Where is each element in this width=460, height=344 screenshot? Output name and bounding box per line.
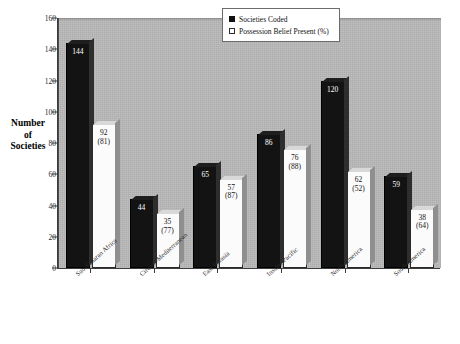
bar-societies-coded: 144 [66, 43, 90, 268]
bar-value-label: 57(87) [220, 184, 242, 201]
x-axis-tick-mark [90, 268, 91, 273]
y-axis-tick-mark [52, 205, 57, 206]
bar-value-label: 59 [385, 181, 407, 190]
bar-value-label: 38(64) [411, 214, 433, 231]
x-axis-tick-mark [154, 268, 155, 273]
bar-count-value: 92 [100, 128, 108, 137]
bar-value-label: 144 [67, 48, 89, 57]
bar-percent-value: (88) [289, 162, 302, 171]
y-axis-tick-mark [52, 80, 57, 81]
bar-count-value: 57 [227, 183, 235, 192]
bar-value-label: 92(81) [93, 129, 115, 146]
legend-item-label: Possession Belief Present (%) [239, 27, 329, 36]
bar-value-label: 86 [258, 139, 280, 148]
bar-percent-value: (87) [225, 191, 238, 200]
bar-side-face [433, 204, 438, 266]
bar-count-value: 35 [164, 217, 172, 226]
y-axis-line [57, 18, 58, 269]
y-axis-tick-label: 160 [0, 14, 56, 23]
bar-chart-figure: Number of Societies 14492(81)4435(77)655… [0, 0, 460, 344]
y-axis-tick-label: 60 [0, 170, 56, 179]
bar-count-value: 76 [291, 153, 299, 162]
bar-societies-coded: 44 [130, 199, 154, 268]
plot-area: 14492(81)4435(77)6557(87)8676(88)12062(5… [58, 18, 441, 268]
y-axis-tick-label: 0 [0, 264, 56, 273]
filled-black-square-icon [229, 16, 235, 22]
y-axis-tick-label: 100 [0, 107, 56, 116]
bar-value-label: 44 [131, 204, 153, 213]
y-axis-tick-label: 80 [0, 139, 56, 148]
open-white-square-icon [229, 28, 235, 34]
bar-value-label: 35(77) [157, 218, 179, 235]
legend-item-label: Societies Coded [239, 15, 288, 24]
bar-side-face [306, 144, 311, 265]
bar-percent-value: (77) [161, 226, 174, 235]
x-axis-tick-mark [281, 268, 282, 273]
bar-count-value: 38 [418, 213, 426, 222]
bar-value-label: 76(88) [284, 154, 306, 171]
x-axis-tick-mark [217, 268, 218, 273]
bar-percent-value: (81) [98, 137, 111, 146]
y-axis-tick-mark [52, 111, 57, 112]
y-axis-tick-mark [52, 18, 57, 19]
legend-item-societies-coded: Societies Coded [229, 13, 329, 25]
y-axis-tick-mark [52, 49, 57, 50]
bar-side-face [242, 174, 247, 265]
bar-societies-coded: 65 [193, 166, 217, 268]
bar-value-label: 62(52) [348, 176, 370, 193]
y-axis-tick-label: 40 [0, 201, 56, 210]
x-axis-tick-mark [345, 268, 346, 273]
bar-value-label: 65 [194, 171, 216, 180]
y-axis-tick-label: 140 [0, 45, 56, 54]
bar-societies-coded: 120 [321, 81, 345, 269]
y-axis-tick-mark [52, 174, 57, 175]
bar-value-label: 120 [322, 86, 344, 95]
x-axis-tick-mark [408, 268, 409, 273]
y-axis-tick-mark [52, 268, 57, 269]
y-axis-tick-label: 20 [0, 232, 56, 241]
y-axis-tick-label: 120 [0, 76, 56, 85]
y-axis-title-line-1: Number [2, 118, 54, 130]
bar-percent-value: (52) [352, 184, 365, 193]
bar-percent-value: (64) [416, 221, 429, 230]
bar-side-face [370, 166, 375, 265]
chart-legend: Societies Coded Possession Belief Presen… [222, 8, 340, 42]
y-axis-tick-mark [52, 236, 57, 237]
y-axis-tick-mark [52, 143, 57, 144]
bar-societies-coded: 59 [384, 176, 408, 268]
x-axis-line [58, 268, 440, 269]
bar-societies-coded: 86 [257, 134, 281, 268]
legend-item-possession-belief: Possession Belief Present (%) [229, 25, 329, 37]
bar-count-value: 62 [355, 175, 363, 184]
